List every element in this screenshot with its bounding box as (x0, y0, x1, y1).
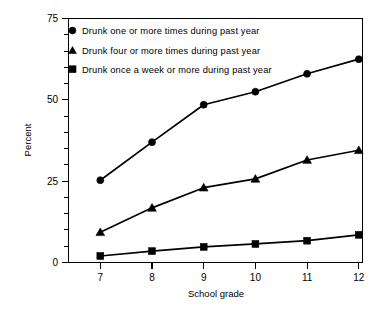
data-point-square-icon (149, 248, 156, 255)
data-point-square-icon (200, 243, 207, 250)
data-point-circle-icon (355, 56, 362, 63)
y-tick-label-25: 25 (47, 176, 59, 187)
legend-entry-1: Drunk four or more times during past yea… (69, 46, 261, 56)
data-point-circle-icon (200, 101, 207, 108)
x-tick-label-10: 10 (250, 272, 262, 283)
data-point-circle-icon (149, 139, 156, 146)
y-tick-label-75: 75 (47, 13, 59, 24)
x-axis-tick-labels: 7 8 9 10 11 12 (98, 272, 365, 283)
y-tick-label-50: 50 (47, 94, 59, 105)
x-tick-label-11: 11 (302, 272, 313, 283)
chart-container: 0 25 50 75 Percent 7 8 9 10 11 12 School… (0, 0, 380, 310)
data-point-circle-icon (252, 88, 259, 95)
data-point-square-icon (97, 253, 104, 260)
series-triangle (96, 146, 363, 236)
data-point-circle-icon (97, 177, 104, 184)
circle-marker-icon (69, 27, 76, 34)
series-line-2 (100, 235, 359, 256)
y-axis-tick-labels: 0 25 50 75 (47, 13, 59, 268)
series-line-1 (100, 150, 359, 232)
legend-entry-2: Drunk once a week or more during past ye… (69, 65, 272, 75)
y-axis-ticks (62, 19, 69, 263)
x-tick-label-12: 12 (353, 272, 365, 283)
legend-label-1: Drunk four or more times during past yea… (82, 46, 260, 56)
series-square (97, 231, 362, 259)
y-axis-title: Percent (22, 123, 33, 156)
square-marker-icon (69, 66, 76, 73)
x-tick-label-9: 9 (201, 272, 207, 283)
data-point-square-icon (304, 237, 311, 244)
series-layer (96, 56, 363, 260)
data-point-triangle-icon (96, 228, 105, 236)
data-point-square-icon (252, 241, 259, 248)
data-point-square-icon (355, 231, 362, 238)
x-tick-label-7: 7 (98, 272, 104, 283)
series-line-0 (100, 59, 359, 180)
y-tick-label-0: 0 (52, 257, 58, 268)
legend: Drunk one or more times during past year… (69, 26, 272, 75)
x-axis-title: School grade (188, 288, 244, 299)
data-point-circle-icon (304, 70, 311, 77)
x-tick-label-8: 8 (149, 272, 155, 283)
line-chart: 0 25 50 75 Percent 7 8 9 10 11 12 School… (0, 0, 380, 310)
legend-label-0: Drunk one or more times during past year (82, 26, 260, 36)
triangle-marker-icon (69, 47, 77, 54)
legend-entry-0: Drunk one or more times during past year (69, 26, 259, 36)
legend-label-2: Drunk once a week or more during past ye… (82, 65, 272, 75)
data-point-triangle-icon (354, 146, 363, 154)
x-axis-ticks (100, 263, 359, 270)
